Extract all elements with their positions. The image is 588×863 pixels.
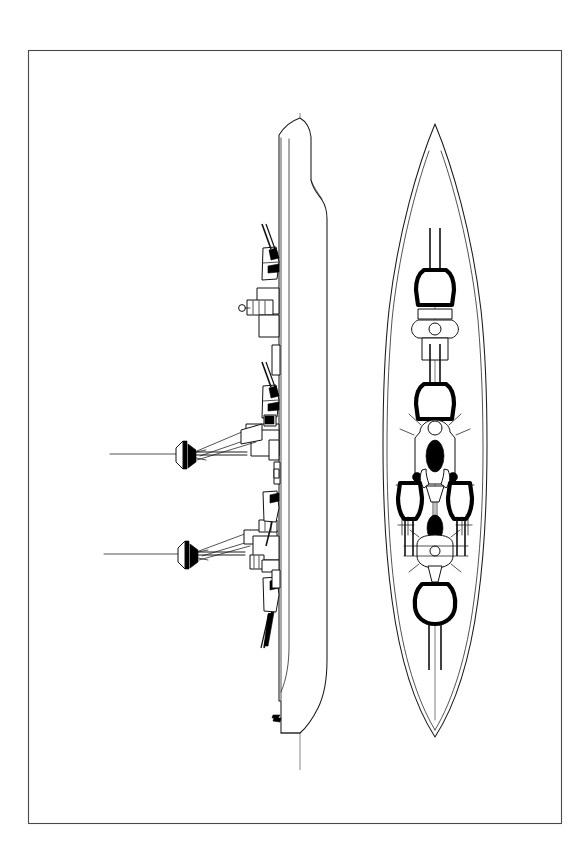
stern-ensign-marking <box>272 715 281 722</box>
ship-plans-plate <box>0 0 588 863</box>
profile-turret-b-barrel-1 <box>262 362 271 387</box>
profile-turret-a-barrel-1 <box>262 224 271 249</box>
profile-forward-superstructure <box>239 288 279 337</box>
plan-view <box>383 124 487 737</box>
plan-bridge-director <box>428 421 442 435</box>
profile-foremast-radar <box>183 441 187 469</box>
profile-turret-a <box>262 224 279 280</box>
profile-mainmast <box>104 532 250 569</box>
plan-after-director <box>430 546 440 556</box>
side-elevation-view <box>104 113 327 770</box>
drawing-page: Warship general arrangement line drawing… <box>0 0 588 863</box>
plan-forward-director <box>429 323 441 335</box>
profile-mainmast-radar <box>185 541 189 569</box>
profile-hull <box>279 118 327 733</box>
profile-foremast <box>110 424 262 469</box>
plan-funnel-forward <box>426 440 444 472</box>
